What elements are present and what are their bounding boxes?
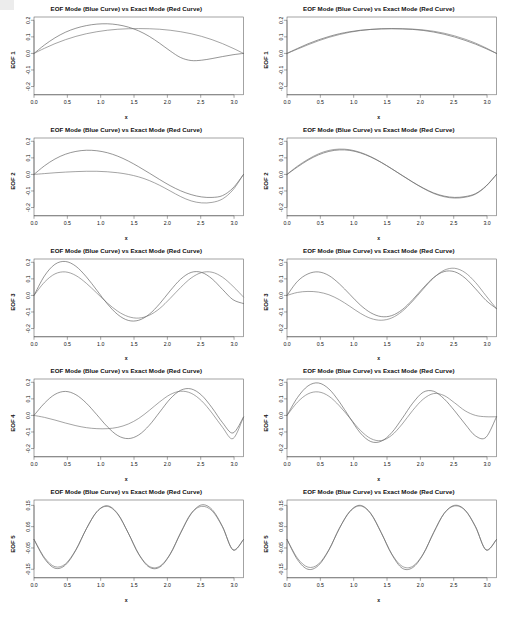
svg-text:0.0: 0.0 [278, 291, 284, 298]
svg-text:3.0: 3.0 [230, 462, 237, 468]
svg-text:0.2: 0.2 [278, 379, 284, 386]
svg-text:1.5: 1.5 [130, 341, 137, 347]
svg-text:0.0: 0.0 [278, 412, 284, 419]
svg-text:0.1: 0.1 [25, 396, 31, 403]
svg-text:0.2: 0.2 [25, 379, 31, 386]
svg-text:0.1: 0.1 [25, 275, 31, 282]
svg-text:-0.1: -0.1 [25, 65, 31, 74]
svg-text:1.5: 1.5 [130, 220, 137, 226]
svg-text:1.0: 1.0 [97, 462, 104, 468]
plot-svg: 0.00.51.01.52.02.53.0-0.2-0.10.00.10.2 [253, 362, 505, 483]
svg-text:0.5: 0.5 [316, 220, 323, 226]
svg-text:0.15: 0.15 [278, 500, 284, 510]
svg-text:1.0: 1.0 [350, 462, 357, 468]
svg-text:0.2: 0.2 [278, 137, 284, 144]
data-curves [287, 383, 496, 443]
svg-text:0.0: 0.0 [25, 412, 31, 419]
svg-text:0.5: 0.5 [316, 99, 323, 105]
svg-text:-0.1: -0.1 [25, 186, 31, 195]
y-axis-label: EOF 1 [262, 52, 268, 69]
plot-area: 0.00.51.01.52.02.53.0-0.2-0.10.00.10.2 [0, 242, 253, 363]
y-axis-label: EOF 2 [262, 173, 268, 190]
plot-area: 0.00.51.01.52.02.53.0-0.2-0.10.00.10.2 [253, 0, 505, 121]
x-axis-label: x [0, 597, 253, 603]
chart-panel-panel-r1c2: EOF Mode (Blue Curve) vs Exact Mode (Red… [253, 0, 505, 121]
x-axis-label: x [0, 476, 253, 482]
y-axis-label: EOF 3 [262, 293, 268, 310]
svg-text:3.0: 3.0 [483, 220, 490, 226]
x-axis-label: x [253, 355, 505, 361]
svg-text:0.0: 0.0 [30, 99, 37, 105]
figure-panel-grid: EOF Mode (Blue Curve) vs Exact Mode (Red… [0, 0, 505, 604]
plot-svg: 0.00.51.01.52.02.53.0-0.2-0.10.00.10.2 [0, 0, 253, 121]
plot-area: 0.00.51.01.52.02.53.0-0.2-0.10.00.10.2 [0, 121, 253, 242]
svg-text:0.0: 0.0 [278, 50, 284, 57]
svg-text:0.0: 0.0 [283, 99, 290, 105]
svg-text:-0.2: -0.2 [25, 82, 31, 91]
svg-text:-0.1: -0.1 [278, 428, 284, 437]
svg-text:-0.2: -0.2 [25, 203, 31, 212]
chart-panel-panel-r2c2: EOF Mode (Blue Curve) vs Exact Mode (Red… [253, 121, 505, 242]
svg-text:0.0: 0.0 [283, 462, 290, 468]
plot-area: 0.00.51.01.52.02.53.0-0.2-0.10.00.10.2 [0, 362, 253, 483]
svg-text:3.0: 3.0 [483, 99, 490, 105]
svg-text:0.0: 0.0 [283, 220, 290, 226]
y-axis-label: EOF 4 [10, 414, 16, 431]
plot-area: 0.00.51.01.52.02.53.0-0.2-0.10.00.10.2 [253, 121, 505, 242]
svg-text:0.0: 0.0 [30, 220, 37, 226]
data-curves [287, 29, 496, 54]
y-axis-label: EOF 3 [10, 293, 16, 310]
svg-text:-0.1: -0.1 [278, 65, 284, 74]
svg-text:1.0: 1.0 [97, 341, 104, 347]
figure-caption [0, 604, 505, 626]
svg-text:0.0: 0.0 [30, 341, 37, 347]
svg-text:1.5: 1.5 [383, 220, 390, 226]
svg-text:2.0: 2.0 [416, 462, 423, 468]
x-axis-label: x [0, 235, 253, 241]
svg-text:3.0: 3.0 [230, 582, 237, 588]
plot-svg: 0.00.51.01.52.02.53.0-0.15-0.050.050.15 [253, 483, 505, 604]
svg-text:2.0: 2.0 [416, 341, 423, 347]
svg-text:0.0: 0.0 [278, 170, 284, 177]
svg-text:1.5: 1.5 [383, 582, 390, 588]
chart-panel-panel-r4c2: EOF Mode (Blue Curve) vs Exact Mode (Red… [253, 362, 505, 483]
data-curves [34, 261, 243, 321]
svg-text:-0.05: -0.05 [25, 542, 31, 554]
svg-text:2.0: 2.0 [164, 582, 171, 588]
chart-panel-panel-r5c2: EOF Mode (Blue Curve) vs Exact Mode (Red… [253, 483, 505, 604]
svg-text:0.5: 0.5 [64, 220, 71, 226]
plot-svg: 0.00.51.01.52.02.53.0-0.2-0.10.00.10.2 [253, 121, 505, 242]
svg-text:0.5: 0.5 [64, 582, 71, 588]
svg-text:0.2: 0.2 [25, 17, 31, 24]
svg-text:-0.05: -0.05 [278, 542, 284, 554]
svg-text:0.1: 0.1 [278, 275, 284, 282]
svg-text:-0.2: -0.2 [25, 324, 31, 333]
x-axis-label: x [0, 355, 253, 361]
svg-text:1.5: 1.5 [383, 99, 390, 105]
svg-text:1.5: 1.5 [130, 99, 137, 105]
data-curves [287, 149, 496, 198]
svg-text:-0.1: -0.1 [278, 186, 284, 195]
y-axis-label: EOF 2 [10, 173, 16, 190]
svg-text:3.0: 3.0 [483, 582, 490, 588]
svg-text:2.0: 2.0 [164, 99, 171, 105]
svg-text:0.5: 0.5 [64, 99, 71, 105]
svg-text:0.1: 0.1 [278, 154, 284, 161]
svg-text:1.0: 1.0 [350, 220, 357, 226]
svg-text:3.0: 3.0 [230, 220, 237, 226]
svg-text:2.5: 2.5 [197, 220, 204, 226]
svg-text:1.0: 1.0 [350, 341, 357, 347]
data-curves [287, 268, 496, 320]
svg-text:0.1: 0.1 [278, 33, 284, 40]
svg-text:0.0: 0.0 [30, 462, 37, 468]
svg-text:1.0: 1.0 [97, 582, 104, 588]
svg-text:-0.1: -0.1 [25, 307, 31, 316]
svg-text:0.1: 0.1 [278, 396, 284, 403]
svg-text:0.0: 0.0 [25, 170, 31, 177]
plot-svg: 0.00.51.01.52.02.53.0-0.2-0.10.00.10.2 [253, 0, 505, 121]
svg-text:0.2: 0.2 [25, 137, 31, 144]
svg-text:2.5: 2.5 [450, 220, 457, 226]
data-curves [34, 24, 243, 61]
svg-text:0.5: 0.5 [316, 582, 323, 588]
svg-text:2.0: 2.0 [164, 462, 171, 468]
